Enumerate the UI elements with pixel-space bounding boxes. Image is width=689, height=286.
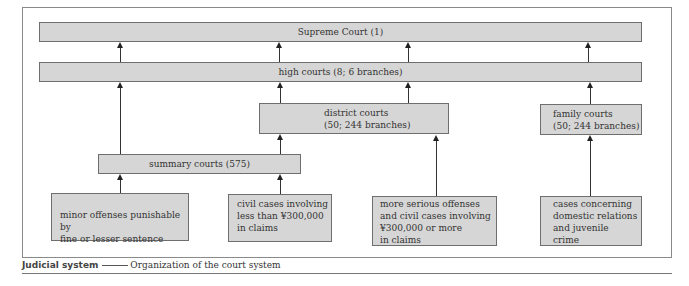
arrow-up-icon bbox=[277, 82, 283, 88]
edge-line bbox=[590, 139, 591, 196]
edge-line bbox=[120, 46, 121, 62]
node-district-courts: district courts (50; 244 branches) bbox=[259, 103, 449, 134]
node-supreme-court-label: Supreme Court (1) bbox=[298, 26, 384, 38]
arrow-up-icon bbox=[276, 42, 282, 48]
arrow-up-icon bbox=[585, 42, 591, 48]
node-summary-courts: summary courts (575) bbox=[98, 154, 301, 174]
edge-line bbox=[590, 86, 591, 104]
edge-line bbox=[280, 86, 281, 103]
arrow-up-icon bbox=[277, 174, 283, 180]
node-case-civil-small-label: civil cases involving less than ¥300,000… bbox=[237, 199, 328, 233]
node-summary-courts-label: summary courts (575) bbox=[149, 158, 250, 170]
arrow-up-icon bbox=[405, 42, 411, 48]
edge-line bbox=[280, 138, 281, 154]
edge-line bbox=[120, 178, 121, 193]
node-family-courts: family courts (50; 244 branches) bbox=[540, 104, 642, 135]
caption-description: Organization of the court system bbox=[130, 260, 280, 270]
node-family-courts-label: family courts (50; 244 branches) bbox=[553, 109, 639, 131]
node-high-courts: high courts (8; 6 branches) bbox=[39, 62, 642, 82]
edge-line bbox=[279, 46, 280, 62]
arrow-up-icon bbox=[587, 135, 593, 141]
arrow-up-icon bbox=[587, 82, 593, 88]
edge-line bbox=[280, 178, 281, 194]
node-case-minor-offenses-label: minor offenses punishable by fine or les… bbox=[60, 210, 180, 244]
bottom-rule bbox=[22, 273, 672, 274]
arrow-up-icon bbox=[277, 134, 283, 140]
edge-line bbox=[120, 86, 121, 154]
node-case-minor-offenses: minor offenses punishable by fine or les… bbox=[51, 193, 189, 241]
node-case-civil-small: civil cases involving less than ¥300,000… bbox=[228, 194, 332, 242]
figure-caption: Judicial systemOrganization of the court… bbox=[22, 258, 672, 272]
edge-line bbox=[408, 86, 409, 103]
node-case-family-matters-label: cases concerning domestic relations and … bbox=[553, 199, 637, 245]
node-district-courts-label: district courts (50; 244 branches) bbox=[324, 108, 410, 130]
caption-dash bbox=[102, 265, 128, 266]
caption-label: Judicial system bbox=[22, 260, 98, 270]
node-case-family-matters: cases concerning domestic relations and … bbox=[540, 196, 642, 246]
arrow-up-icon bbox=[117, 82, 123, 88]
node-high-courts-label: high courts (8; 6 branches) bbox=[279, 66, 403, 78]
edge-line bbox=[408, 46, 409, 62]
node-case-serious-offenses-label: more serious offenses and civil cases in… bbox=[380, 199, 491, 245]
arrow-up-icon bbox=[405, 82, 411, 88]
node-case-serious-offenses: more serious offenses and civil cases in… bbox=[372, 196, 497, 246]
arrow-up-icon bbox=[433, 135, 439, 141]
arrow-up-icon bbox=[117, 174, 123, 180]
edge-line bbox=[588, 46, 589, 62]
arrow-up-icon bbox=[117, 42, 123, 48]
node-supreme-court: Supreme Court (1) bbox=[39, 22, 642, 42]
